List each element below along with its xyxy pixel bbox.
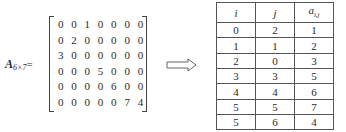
table-row: 021 bbox=[217, 23, 334, 38]
matrix-cell: 0 bbox=[54, 17, 67, 33]
matrix-cell: 3 bbox=[54, 48, 67, 64]
matrix-dims: 6×7 bbox=[13, 63, 26, 72]
matrix-name: A bbox=[5, 57, 13, 71]
matrix-cell: 0 bbox=[120, 64, 133, 80]
matrix-cell: 0 bbox=[94, 95, 107, 111]
cell-i: 2 bbox=[217, 53, 256, 68]
matrix-cell: 0 bbox=[81, 33, 94, 49]
matrix-cell: 4 bbox=[134, 95, 147, 111]
matrix-cell: 0 bbox=[134, 17, 147, 33]
equals-sign: = bbox=[26, 58, 32, 70]
header-a: ai,j bbox=[295, 3, 334, 23]
matrix-cell: 0 bbox=[67, 79, 80, 95]
matrix-cell: 0 bbox=[134, 64, 147, 80]
cell-value: 1 bbox=[295, 23, 334, 38]
cell-i: 5 bbox=[217, 99, 256, 114]
matrix-cell: 0 bbox=[67, 95, 80, 111]
table-row: 446 bbox=[217, 84, 334, 99]
matrix-cell: 0 bbox=[134, 48, 147, 64]
table-row: 335 bbox=[217, 69, 334, 84]
table-row: 557 bbox=[217, 99, 334, 114]
matrix-cell: 0 bbox=[81, 64, 94, 80]
cell-j: 6 bbox=[256, 114, 295, 129]
matrix-cell: 0 bbox=[120, 33, 133, 49]
matrix-cell: 0 bbox=[107, 17, 120, 33]
matrix-cell: 0 bbox=[120, 17, 133, 33]
matrix-cell: 0 bbox=[67, 48, 80, 64]
matrix-grid: 0010000020000030000000005000000060000000… bbox=[54, 17, 147, 110]
matrix-cell: 0 bbox=[94, 48, 107, 64]
cell-j: 1 bbox=[256, 38, 295, 53]
matrix-cell: 0 bbox=[54, 95, 67, 111]
cell-value: 6 bbox=[295, 84, 334, 99]
table-body: 021112203335446557564 bbox=[217, 23, 334, 130]
cell-value: 7 bbox=[295, 99, 334, 114]
table-header-row: i j ai,j bbox=[217, 3, 334, 23]
matrix-cell: 7 bbox=[120, 95, 133, 111]
matrix-cell: 1 bbox=[81, 17, 94, 33]
matrix-cell: 0 bbox=[94, 17, 107, 33]
cell-j: 0 bbox=[256, 53, 295, 68]
cell-j: 3 bbox=[256, 69, 295, 84]
cell-i: 1 bbox=[217, 38, 256, 53]
matrix-cell: 0 bbox=[134, 33, 147, 49]
matrix-cell: 0 bbox=[54, 64, 67, 80]
table-row: 112 bbox=[217, 38, 334, 53]
triplet-table: i j ai,j 021112203335446557564 bbox=[216, 2, 334, 130]
table-row: 564 bbox=[217, 114, 334, 129]
matrix-cell: 0 bbox=[107, 48, 120, 64]
matrix-cell: 0 bbox=[107, 95, 120, 111]
cell-j: 5 bbox=[256, 99, 295, 114]
cell-i: 4 bbox=[217, 84, 256, 99]
cell-value: 5 bbox=[295, 69, 334, 84]
double-right-arrow-icon bbox=[166, 58, 198, 72]
cell-j: 4 bbox=[256, 84, 295, 99]
matrix-cell: 0 bbox=[67, 17, 80, 33]
matrix-cell: 2 bbox=[67, 33, 80, 49]
cell-value: 2 bbox=[295, 38, 334, 53]
matrix-cell: 0 bbox=[94, 79, 107, 95]
cell-value: 3 bbox=[295, 53, 334, 68]
table-row: 203 bbox=[217, 53, 334, 68]
cell-j: 2 bbox=[256, 23, 295, 38]
matrix-cell: 0 bbox=[81, 95, 94, 111]
matrix-cell: 0 bbox=[54, 33, 67, 49]
header-j: j bbox=[256, 3, 295, 23]
matrix-label: A6×7= bbox=[5, 57, 33, 72]
matrix-cell: 0 bbox=[81, 79, 94, 95]
header-i: i bbox=[217, 3, 256, 23]
cell-i: 0 bbox=[217, 23, 256, 38]
matrix-cell: 5 bbox=[94, 64, 107, 80]
matrix-cell: 0 bbox=[120, 48, 133, 64]
matrix-cell: 6 bbox=[107, 79, 120, 95]
cell-i: 3 bbox=[217, 69, 256, 84]
sparse-matrix: 0010000020000030000000005000000060000000… bbox=[49, 16, 147, 112]
matrix-cell: 0 bbox=[107, 33, 120, 49]
matrix-cell: 0 bbox=[94, 33, 107, 49]
matrix-cell: 0 bbox=[107, 64, 120, 80]
cell-i: 5 bbox=[217, 114, 256, 129]
matrix-cell: 0 bbox=[54, 79, 67, 95]
matrix-cell: 0 bbox=[134, 79, 147, 95]
matrix-cell: 0 bbox=[120, 79, 133, 95]
matrix-cell: 0 bbox=[67, 64, 80, 80]
header-a-subscript: i,j bbox=[314, 11, 320, 19]
cell-value: 4 bbox=[295, 114, 334, 129]
matrix-cell: 0 bbox=[81, 48, 94, 64]
